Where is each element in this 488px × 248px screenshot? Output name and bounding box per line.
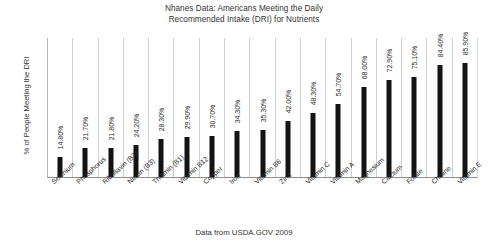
x-axis-tick: Vitamin C (301, 179, 326, 235)
bar-column: 35.30% (250, 38, 275, 177)
bar-value-label: 75.10% (411, 46, 418, 69)
x-axis-tick: Niacin (B3) (123, 179, 148, 235)
bar[interactable] (361, 87, 366, 177)
bar-column: 68.00% (352, 38, 377, 177)
bar-value-label: 35.30% (259, 99, 266, 122)
x-axis-category-labels: SeleniumPhosphorusRiboflavin (B2)Niacin … (47, 179, 478, 235)
bar[interactable] (235, 131, 240, 177)
x-axis-tick: Vitamin A (326, 179, 351, 235)
bar-column: 14.80% (48, 38, 73, 177)
bar[interactable] (462, 63, 467, 177)
bar[interactable] (412, 77, 417, 177)
bar-column: 48.30% (301, 38, 326, 177)
x-axis-tick: Magnesium (351, 179, 376, 235)
bar[interactable] (437, 65, 442, 177)
y-axis-title: % of People Meeting the DRI (22, 31, 31, 181)
bar-column: 28.30% (149, 38, 174, 177)
x-axis-tick: Choline (427, 179, 452, 235)
bar-column: 42.00% (276, 38, 301, 177)
x-axis-tick: Riboflavin (B2) (98, 179, 123, 235)
bar-value-label: 28.30% (158, 108, 165, 131)
bar-value-label: 29.90% (183, 106, 190, 129)
x-axis-tick: Vitamin E (453, 179, 478, 235)
x-axis-tick: Copper (199, 179, 224, 235)
bar-value-label: 72.90% (386, 49, 393, 72)
bar-column: 75.10% (402, 38, 427, 177)
x-axis-tick: Zinc (275, 179, 300, 235)
bar-value-label: 34.30% (234, 100, 241, 123)
x-axis-tick: Vitamin B6 (250, 179, 275, 235)
x-axis-tick: Phosphorus (72, 179, 97, 235)
bar-value-label: 21.70% (82, 117, 89, 140)
x-axis-tick: Calcium (377, 179, 402, 235)
bar[interactable] (285, 121, 290, 177)
bar-column: 21.70% (73, 38, 98, 177)
bar-column: 85.90% (453, 38, 477, 177)
x-axis-tick: Iron (225, 179, 250, 235)
x-axis-tick: Thiamin (B1) (148, 179, 173, 235)
x-axis-tick: Selenium (47, 179, 72, 235)
chart-title-line-2: Recommended Intake (DRI) for Nutrients (0, 14, 488, 25)
chart-title: Nhanes Data: Americans Meeting the Daily… (0, 3, 488, 25)
bar-value-label: 24.20% (133, 114, 140, 137)
bar-value-label: 68.00% (360, 56, 367, 79)
chart-container: Nhanes Data: Americans Meeting the Daily… (0, 0, 488, 248)
x-axis-tick: Folate (402, 179, 427, 235)
bar-value-label: 42.00% (284, 90, 291, 113)
bar[interactable] (336, 104, 341, 177)
bar-series: 14.80%21.70%21.80%24.20%28.30%29.90%30.7… (48, 38, 477, 177)
bar-value-label: 85.90% (461, 32, 468, 55)
bar-column: 84.40% (427, 38, 452, 177)
bar-value-label: 21.80% (107, 117, 114, 140)
bar-value-label: 48.30% (310, 82, 317, 105)
plot-area: 14.80%21.70%21.80%24.20%28.30%29.90%30.7… (47, 38, 478, 178)
bar-value-label: 54.70% (335, 73, 342, 96)
bar-value-label: 84.40% (436, 34, 443, 57)
source-note: Data from USDA.GOV 2009 (0, 228, 488, 237)
chart-title-line-1: Nhanes Data: Americans Meeting the Daily (0, 3, 488, 14)
bar[interactable] (311, 113, 316, 177)
bar-column: 34.30% (225, 38, 250, 177)
bar-column: 54.70% (326, 38, 351, 177)
bar-value-label: 30.70% (208, 105, 215, 128)
bar[interactable] (387, 80, 392, 177)
x-axis-tick: Vitamin B12 (174, 179, 199, 235)
bar-value-label: 14.80% (57, 126, 64, 149)
